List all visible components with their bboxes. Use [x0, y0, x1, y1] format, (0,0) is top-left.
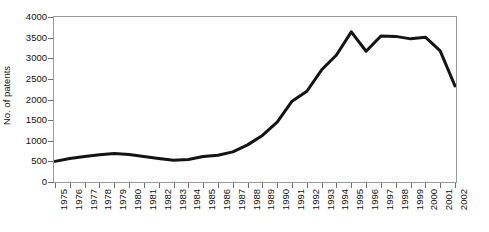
x-tick-label: 1984 [192, 189, 202, 229]
x-tick-label: 1982 [163, 189, 173, 229]
x-tick-label: 1989 [266, 189, 276, 229]
y-tick-mark [48, 79, 53, 80]
x-tick-mark [248, 183, 249, 188]
y-tick-label: 1000 [26, 136, 47, 146]
x-tick-label: 1990 [281, 189, 291, 229]
x-tick-label: 1998 [400, 189, 410, 229]
x-tick-mark [277, 183, 278, 188]
x-tick-label: 1975 [59, 189, 69, 229]
x-tick-mark [292, 183, 293, 188]
x-tick-mark [351, 183, 352, 188]
x-tick-mark [203, 183, 204, 188]
x-tick-label: 2000 [429, 189, 439, 229]
x-tick-mark [322, 183, 323, 188]
x-tick-label: 2002 [459, 189, 469, 229]
y-tick-mark [48, 141, 53, 142]
x-tick-mark [381, 183, 382, 188]
y-axis-title: No. of patents [0, 0, 14, 190]
x-tick-mark [455, 183, 456, 188]
y-axis-title-label: No. of patents [2, 65, 13, 124]
x-axis-tick-labels: 1975197619771978197919801981198219831984… [0, 189, 489, 232]
x-tick-mark [129, 183, 130, 188]
x-tick-mark [233, 183, 234, 188]
y-tick-mark [48, 17, 53, 18]
x-tick-mark [70, 183, 71, 188]
patents-line-chart: No. of patents 0500100015002000250030003… [0, 0, 489, 232]
x-tick-label: 1996 [370, 189, 380, 229]
y-tick-label: 2500 [26, 74, 47, 84]
x-tick-mark [159, 183, 160, 188]
plot-area [53, 16, 457, 183]
x-tick-label: 1976 [74, 189, 84, 229]
x-tick-label: 2001 [444, 189, 454, 229]
x-tick-label: 1977 [89, 189, 99, 229]
x-tick-label: 1993 [326, 189, 336, 229]
y-tick-label: 0 [42, 177, 47, 187]
x-tick-mark [55, 183, 56, 188]
x-tick-label: 1978 [103, 189, 113, 229]
x-tick-label: 1992 [311, 189, 321, 229]
x-tick-label: 1991 [296, 189, 306, 229]
y-tick-label: 2000 [26, 95, 47, 105]
x-tick-mark [307, 183, 308, 188]
y-tick-mark [48, 58, 53, 59]
x-tick-label: 1983 [178, 189, 188, 229]
x-tick-mark [262, 183, 263, 188]
y-tick-mark [48, 161, 53, 162]
y-tick-label: 4000 [26, 12, 47, 22]
y-axis-tick-labels: 05001000150020002500300035004000 [14, 0, 50, 190]
x-tick-label: 1997 [385, 189, 395, 229]
x-tick-mark [85, 183, 86, 188]
x-tick-mark [396, 183, 397, 188]
x-tick-label: 1988 [252, 189, 262, 229]
y-tick-label: 1500 [26, 115, 47, 125]
y-tick-label: 3000 [26, 53, 47, 63]
patents-series-line [55, 32, 455, 162]
x-tick-mark [188, 183, 189, 188]
x-tick-label: 1980 [133, 189, 143, 229]
x-tick-mark [218, 183, 219, 188]
x-tick-mark [425, 183, 426, 188]
y-tick-mark [48, 120, 53, 121]
x-tick-label: 1986 [222, 189, 232, 229]
x-tick-label: 1985 [207, 189, 217, 229]
y-tick-mark [48, 182, 53, 183]
x-tick-mark [144, 183, 145, 188]
x-tick-mark [411, 183, 412, 188]
x-tick-mark [114, 183, 115, 188]
x-tick-mark [440, 183, 441, 188]
y-tick-mark [48, 100, 53, 101]
x-tick-label: 1995 [355, 189, 365, 229]
x-tick-mark [336, 183, 337, 188]
x-tick-label: 1987 [237, 189, 247, 229]
y-tick-label: 3500 [26, 33, 47, 43]
x-tick-label: 1981 [148, 189, 158, 229]
x-tick-mark [366, 183, 367, 188]
x-tick-label: 1994 [340, 189, 350, 229]
x-tick-label: 1999 [415, 189, 425, 229]
x-tick-mark [99, 183, 100, 188]
data-line-series [54, 17, 456, 182]
y-tick-mark [48, 38, 53, 39]
x-tick-mark [174, 183, 175, 188]
x-tick-label: 1979 [118, 189, 128, 229]
y-tick-label: 500 [31, 156, 47, 166]
